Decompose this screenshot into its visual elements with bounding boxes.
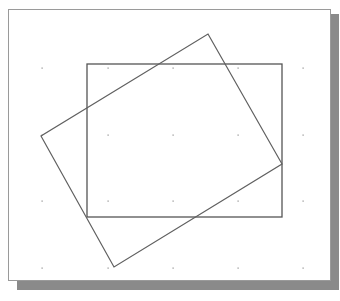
grid-dot (173, 201, 174, 202)
grid-dot (303, 135, 304, 136)
grid-dot (42, 68, 43, 69)
grid-dot (238, 201, 239, 202)
upright-rectangle[interactable] (87, 64, 282, 217)
grid-dot (173, 68, 174, 69)
grid-dot (303, 68, 304, 69)
grid-dot (238, 68, 239, 69)
grid-dot (303, 268, 304, 269)
grid-dot (173, 135, 174, 136)
grid-dot (238, 135, 239, 136)
grid-dot (42, 268, 43, 269)
drawing-svg (0, 0, 340, 301)
grid-dot (108, 68, 109, 69)
rotated-rectangle[interactable] (41, 34, 282, 267)
grid-dot (108, 268, 109, 269)
grid-dots (42, 68, 304, 269)
grid-dot (108, 135, 109, 136)
grid-dot (42, 201, 43, 202)
grid-dot (173, 268, 174, 269)
grid-dot (238, 268, 239, 269)
grid-dot (108, 201, 109, 202)
grid-dot (303, 201, 304, 202)
